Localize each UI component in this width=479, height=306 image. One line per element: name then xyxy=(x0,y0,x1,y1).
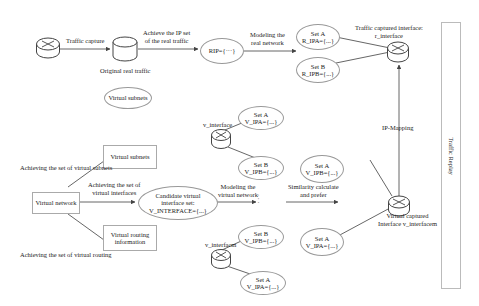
candidate-interface-ellipse: Candidate virtual interface set: V_INTER… xyxy=(138,186,218,220)
virtual-top-set-a-ellipse: Set A V_IPA={...} xyxy=(238,106,284,130)
similarity-label: Similarity calculate and prefer xyxy=(288,183,339,198)
right-set-a2-ellipse: Set A V_IPA={...} xyxy=(300,228,344,256)
real-set-b-ellipse: Set B R_IPB={...} xyxy=(296,57,340,83)
traffic-replay-label: Traffic Replay xyxy=(448,137,455,175)
achieving-subnets-label: Achieving the set of virtual subnets xyxy=(20,164,112,172)
traffic-captured-interface-label: Traffic captured interface: r_interface xyxy=(355,24,423,39)
traffic-capture-label: Traffic capture xyxy=(66,37,104,45)
v-interface-bottom-label: v_interfacm xyxy=(205,241,236,249)
modeling-real-network-label: Modeling the real network xyxy=(250,31,285,46)
virtual-captured-interface-label: Virtual captured Interface v_interfacem xyxy=(378,212,437,227)
virtual-bottom-set-b-ellipse: Set B V_IPB={...} xyxy=(238,225,284,249)
modeling-virtual-network-label: Modeling the virtual network xyxy=(218,183,258,198)
original-traffic-label: Original real traffic xyxy=(100,67,150,75)
virtual-bottom-set-a-ellipse: Set A V_IPA={...} xyxy=(240,271,286,295)
v-interface-top-label: v_interface xyxy=(203,121,232,129)
achieving-interfaces-label: Achieving the set of virtual interfaces xyxy=(88,181,141,196)
virtual-routing-box: Virtual routing information xyxy=(103,225,157,251)
right-set-a-ellipse: Set A V_IPB={...} xyxy=(300,155,344,183)
v-interface-top-router-icon xyxy=(210,128,232,150)
virtual-top-set-b-ellipse: Set B V_IPB={...} xyxy=(238,156,284,180)
virtual-subnets-ellipse: Virtual subnets xyxy=(104,87,152,109)
v-interface-bottom-router-icon xyxy=(210,248,232,270)
ip-mapping-label: IP-Mapping xyxy=(382,124,413,132)
real-router-icon xyxy=(35,36,61,60)
achieving-routing-label: Achieving the set of virtual routing xyxy=(20,251,112,259)
database-icon xyxy=(111,36,139,62)
ellipsis-dots: · · · xyxy=(255,194,263,204)
achieve-ip-label: Achieve the IP set of the real traffic xyxy=(143,29,190,44)
diagram-canvas: Traffic capture Original real traffic Ac… xyxy=(0,0,479,306)
r-interface-router-icon xyxy=(386,40,410,64)
real-set-a-ellipse: Set A R_IPA={...} xyxy=(296,24,340,50)
virtual-network-box: Virtual network xyxy=(32,192,80,214)
traffic-replay-box: Traffic Replay xyxy=(441,22,461,289)
rip-set-ellipse: RIP={···} xyxy=(200,38,244,64)
